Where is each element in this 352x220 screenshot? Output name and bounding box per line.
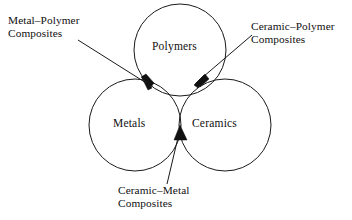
callout-label-ceramic-polymer: Ceramic–Polymer Composites xyxy=(251,20,335,46)
venn-diagram-figure: Polymers Metals Ceramics Metal–Polymer C… xyxy=(0,0,352,220)
callout-ceramic-polymer-line2: Composites xyxy=(251,33,335,46)
callout-ceramic-polymer-line1: Ceramic–Polymer xyxy=(251,20,335,33)
callout-metal-polymer-line2: Composites xyxy=(8,27,80,40)
circle-label-polymers: Polymers xyxy=(152,40,197,53)
circle-label-metals: Metals xyxy=(113,117,146,130)
callout-ceramic-metal-line2: Composites xyxy=(118,197,190,210)
callout-metal-polymer-line1: Metal–Polymer xyxy=(8,14,80,27)
arrowhead-ceramic-metal xyxy=(174,125,187,140)
callout-ceramic-metal-line1: Ceramic–Metal xyxy=(118,184,190,197)
callout-label-ceramic-metal: Ceramic–Metal Composites xyxy=(118,184,190,210)
callout-label-metal-polymer: Metal–Polymer Composites xyxy=(8,14,80,40)
leader-line-metal-polymer xyxy=(78,40,151,86)
circle-label-ceramics: Ceramics xyxy=(192,117,237,130)
